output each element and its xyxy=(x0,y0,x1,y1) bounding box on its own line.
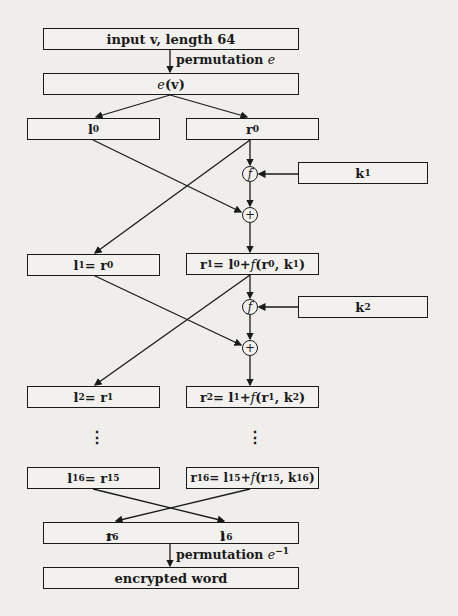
k2-box: k2 xyxy=(298,296,428,318)
ellipsis-left: ⋮ xyxy=(89,430,95,446)
l0-box: l0 xyxy=(27,118,160,140)
k1-box: k1 xyxy=(298,162,428,184)
r16-box: r16 = l15 + f(r15, k16) xyxy=(186,467,319,489)
permutation-e-label: permutation e xyxy=(176,52,275,67)
l2-box: l2 = r1 xyxy=(27,386,160,408)
encrypted-word-box: encrypted word xyxy=(43,567,299,589)
r1-box: r1 = l0 + f(r0, k1) xyxy=(186,253,319,275)
r0-box: r0 xyxy=(186,118,319,140)
l16-box: l16 = r15 xyxy=(27,467,160,489)
input-box: input v, length 64 xyxy=(43,28,299,50)
l1-box: l1 = r0 xyxy=(27,254,160,276)
input-label: input v, length 64 xyxy=(107,32,236,47)
permuted-input-box: e(v) xyxy=(43,73,299,95)
xor-node-1: + xyxy=(242,207,258,223)
l16-swapped: l16 xyxy=(220,526,233,542)
ellipsis-right: ⋮ xyxy=(247,430,253,446)
r16-swapped: r16 xyxy=(106,526,119,542)
r2-box: r2 = l1 + f(r1, k2) xyxy=(186,386,319,408)
swapped-halves-box: r16 l16 xyxy=(43,522,299,544)
permutation-inverse-label: permutation e−1 xyxy=(176,546,289,562)
f-function-node-1: f xyxy=(242,166,258,182)
xor-node-2: + xyxy=(242,340,258,356)
f-function-node-2: f xyxy=(242,299,258,315)
